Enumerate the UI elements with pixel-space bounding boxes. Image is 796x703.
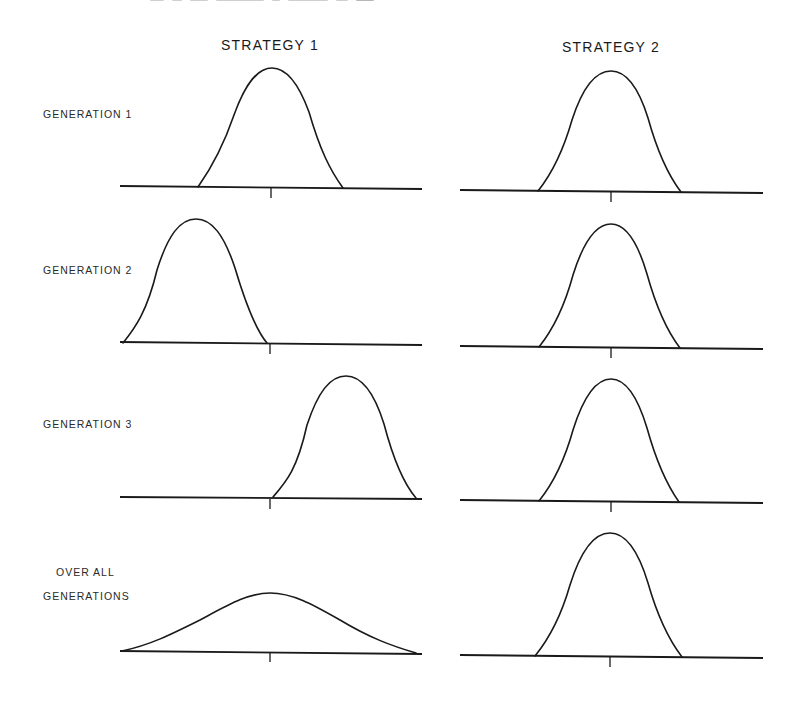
distribution-curve (539, 224, 680, 348)
panel-s1-generation-3 (120, 376, 422, 509)
distribution-curve (539, 379, 679, 502)
distribution-curve (538, 71, 681, 192)
panel-s2-generation-3 (460, 379, 763, 512)
distribution-grid (0, 0, 796, 703)
panel-s1-generation-1 (120, 68, 422, 198)
baseline-axis (120, 342, 422, 345)
distribution-curve (198, 68, 343, 188)
panel-s1-generation-2 (120, 219, 422, 354)
panel-s1-over-all-generations (120, 593, 422, 662)
baseline-axis (120, 651, 422, 654)
panel-s2-over-all-generations (460, 533, 763, 667)
panel-s2-generation-2 (460, 224, 763, 358)
distribution-curve (273, 376, 416, 498)
baseline-axis (460, 655, 763, 658)
distribution-curve (535, 533, 682, 657)
baseline-axis (120, 497, 422, 499)
distribution-curve (122, 593, 416, 653)
panel-s2-generation-1 (460, 71, 763, 202)
distribution-curve (123, 219, 267, 343)
